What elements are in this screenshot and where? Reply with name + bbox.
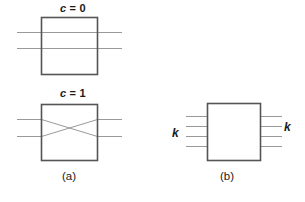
kbox-box xyxy=(208,104,261,161)
figure-canvas xyxy=(0,0,305,202)
caption-panel-b: (b) xyxy=(220,171,234,183)
switch-straight-group xyxy=(17,18,122,75)
control-eq-c0: = xyxy=(66,2,79,14)
control-label-c1: c = 1 xyxy=(60,88,86,99)
switch-box-crossed xyxy=(42,105,98,161)
control-eq-c1: = xyxy=(66,87,79,99)
control-value-c0: 0 xyxy=(79,2,85,14)
switch-box-straight xyxy=(42,18,98,75)
kbox-output-label: k xyxy=(284,121,291,133)
switch-crossed-group xyxy=(17,105,122,161)
control-value-c1: 1 xyxy=(79,87,85,99)
kbox-group xyxy=(186,104,282,161)
caption-panel-a: (a) xyxy=(62,171,76,183)
figure-root: c = 0 c = 1 k k (a) (b) xyxy=(0,0,305,202)
kbox-input-label: k xyxy=(172,127,179,139)
control-label-c0: c = 0 xyxy=(60,3,86,14)
